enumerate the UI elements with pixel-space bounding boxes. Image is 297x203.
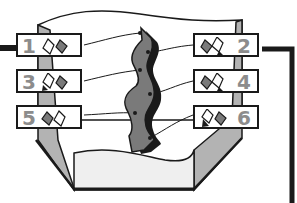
label-box-6: 6 — [193, 105, 259, 129]
label-number: 3 — [22, 71, 36, 93]
label-number: 6 — [237, 107, 251, 129]
label-box-2: 2 — [193, 33, 259, 57]
label-number: 2 — [237, 35, 251, 57]
diamond-pair-icon — [40, 37, 76, 55]
diamond-pair-icon — [40, 73, 76, 91]
diamond-pair-icon — [197, 109, 233, 127]
diamond-pair-icon — [40, 109, 76, 127]
label-box-4: 4 — [193, 69, 259, 93]
label-box-1: 1 — [16, 33, 82, 57]
label-number: 5 — [22, 107, 36, 129]
label-box-5: 5 — [16, 105, 82, 129]
label-number: 4 — [237, 71, 251, 93]
diamond-pair-icon — [197, 37, 233, 55]
right-bracket-connector — [262, 49, 292, 203]
label-box-3: 3 — [16, 69, 82, 93]
bottom-basin — [74, 150, 194, 190]
diamond-pair-icon — [197, 73, 233, 91]
funnel-diagram — [0, 0, 297, 203]
label-number: 1 — [22, 35, 36, 57]
